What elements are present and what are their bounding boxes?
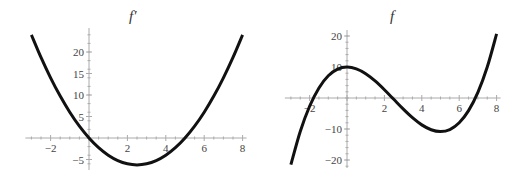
x-tick-label: 6 bbox=[201, 142, 207, 154]
x-tick-label: 2 bbox=[382, 102, 388, 114]
x-tick-label: 2 bbox=[125, 142, 131, 154]
x-tick-label: −2 bbox=[45, 142, 57, 154]
y-tick-label: 20 bbox=[73, 46, 85, 58]
chart-title-f: f bbox=[390, 8, 394, 25]
chart-f-prime: −22468−55101520 f′ bbox=[0, 0, 261, 182]
y-tick-label: −20 bbox=[325, 154, 343, 166]
y-tick-label: −10 bbox=[325, 123, 343, 135]
plot-area-f: −22468−20−101020 bbox=[261, 0, 522, 182]
curve-f-prime bbox=[31, 35, 242, 165]
x-tick-label: 6 bbox=[456, 102, 462, 114]
chart-f: −22468−20−101020 f bbox=[261, 0, 522, 182]
y-tick-label: 10 bbox=[73, 89, 85, 101]
y-tick-label: 5 bbox=[79, 111, 85, 123]
x-tick-label: 4 bbox=[419, 102, 425, 114]
x-tick-label: 8 bbox=[240, 142, 246, 154]
y-tick-label: 15 bbox=[73, 68, 85, 80]
y-tick-label: −5 bbox=[72, 154, 84, 166]
plot-area-f-prime: −22468−55101520 bbox=[0, 0, 261, 182]
y-tick-label: 20 bbox=[331, 30, 343, 42]
x-tick-label: 8 bbox=[494, 102, 500, 114]
curve-f bbox=[291, 34, 497, 165]
chart-title-f-prime: f′ bbox=[129, 8, 136, 25]
